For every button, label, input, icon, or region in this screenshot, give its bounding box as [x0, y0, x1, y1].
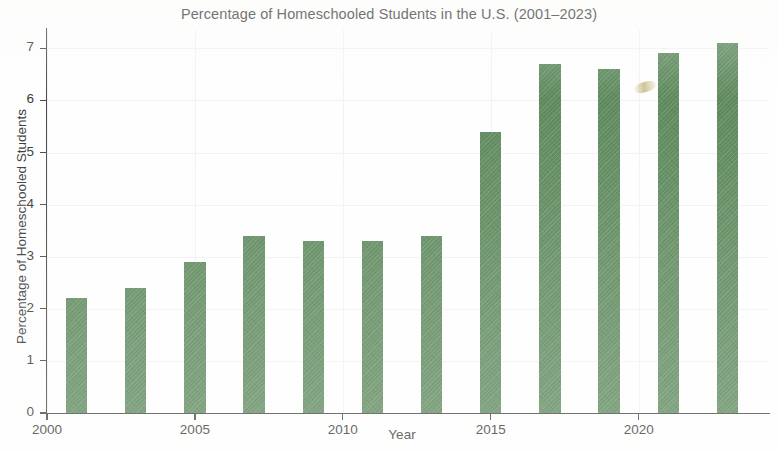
bar: [362, 241, 383, 413]
bar-texture: [539, 64, 560, 413]
bar-texture: [598, 69, 619, 413]
y-tick-label: 1: [8, 352, 34, 367]
x-tick-mark: [638, 413, 639, 420]
x-tick-mark: [194, 413, 195, 420]
y-tick-mark: [40, 204, 47, 205]
chart-figure: Percentage of Homeschooled Students in t…: [0, 0, 778, 450]
bar: [598, 69, 619, 413]
bar-texture: [362, 241, 383, 413]
bar-texture: [303, 241, 324, 413]
x-tick-mark: [490, 413, 491, 420]
y-axis-title: Percentage of Homeschooled Students: [14, 77, 29, 377]
bar: [125, 288, 146, 413]
bar-texture: [717, 43, 738, 413]
y-tick-mark: [40, 100, 47, 101]
gridline-vertical: [343, 30, 344, 413]
bar: [658, 53, 679, 413]
scan-artifact-mark: [633, 79, 657, 95]
y-tick-label: 4: [8, 196, 34, 211]
y-tick-label: 6: [8, 91, 34, 106]
bar-texture: [184, 262, 205, 413]
bar: [184, 262, 205, 413]
chart-title: Percentage of Homeschooled Students in t…: [0, 6, 778, 22]
bar: [539, 64, 560, 413]
bar-texture: [658, 53, 679, 413]
y-tick-label: 7: [8, 39, 34, 54]
y-tick-mark: [40, 308, 47, 309]
gridline-vertical: [639, 30, 640, 413]
y-tick-mark: [40, 48, 47, 49]
bar: [480, 132, 501, 413]
bar-texture: [480, 132, 501, 413]
x-tick-label: 2005: [160, 422, 230, 437]
y-axis-line: [46, 28, 47, 414]
x-tick-label: 2010: [308, 422, 378, 437]
bar: [303, 241, 324, 413]
x-tick-label: 2015: [456, 422, 526, 437]
bar-texture: [125, 288, 146, 413]
x-tick-mark: [342, 413, 343, 420]
y-tick-label: 5: [8, 144, 34, 159]
bar: [717, 43, 738, 413]
x-tick-label: 2000: [12, 422, 82, 437]
y-tick-label: 3: [8, 248, 34, 263]
y-tick-mark: [40, 152, 47, 153]
x-tick-mark: [46, 413, 47, 420]
x-tick-label: 2020: [604, 422, 674, 437]
y-tick-label: 2: [8, 300, 34, 315]
bar-texture: [243, 236, 264, 413]
gridline-horizontal: [47, 48, 769, 49]
bar-texture: [421, 236, 442, 413]
y-tick-mark: [40, 360, 47, 361]
y-tick-label: 0: [8, 404, 34, 419]
bar-texture: [66, 298, 87, 413]
bar: [421, 236, 442, 413]
bar: [243, 236, 264, 413]
y-tick-mark: [40, 256, 47, 257]
bar: [66, 298, 87, 413]
